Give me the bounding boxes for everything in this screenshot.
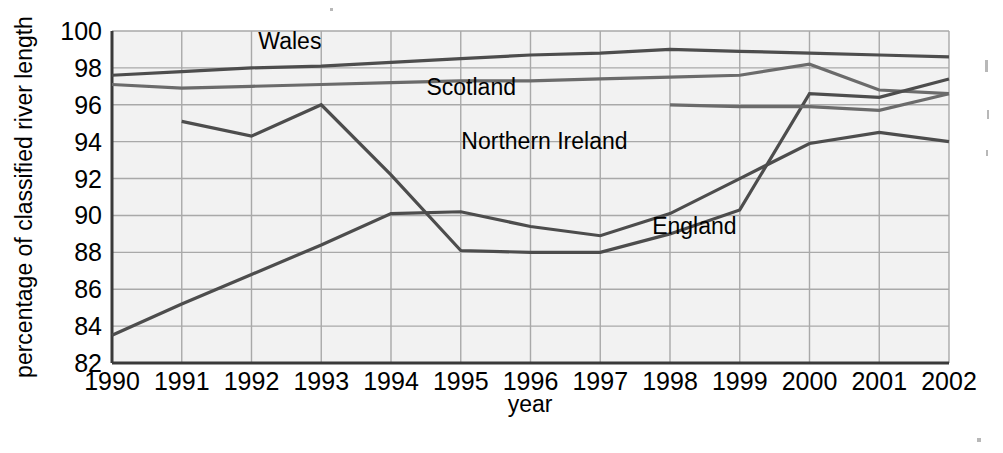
y-tick-label: 88 <box>74 238 102 266</box>
x-tick-label: 1995 <box>433 367 489 395</box>
x-tick-label: 2002 <box>921 367 977 395</box>
scan-speck <box>977 438 981 442</box>
scan-speck <box>985 60 988 72</box>
series-label-wales: Wales <box>258 28 321 54</box>
chart-figure: 828486889092949698100 199019911992199319… <box>0 0 1003 453</box>
x-tick-label: 1991 <box>154 367 210 395</box>
series-label-scotland: Scotland <box>426 74 516 100</box>
y-tick-label: 100 <box>60 17 102 45</box>
x-tick-label: 1994 <box>363 367 419 395</box>
y-tick-label: 92 <box>74 165 102 193</box>
y-tick-label: 94 <box>74 128 102 156</box>
x-tick-label: 2000 <box>782 367 838 395</box>
y-tick-label: 84 <box>74 312 102 340</box>
line-chart: 828486889092949698100 199019911992199319… <box>0 0 1003 453</box>
scan-speck <box>330 8 333 11</box>
x-tick-label: 1993 <box>293 367 349 395</box>
series-label-northern-ireland: Northern Ireland <box>461 128 627 154</box>
y-axis-title: percentage of classified river length <box>11 16 37 378</box>
y-tick-label: 86 <box>74 275 102 303</box>
x-tick-label: 1990 <box>84 367 140 395</box>
x-tick-label: 1998 <box>642 367 698 395</box>
x-axis-title: year <box>508 391 553 417</box>
x-tick-label: 1999 <box>712 367 768 395</box>
x-tick-label: 1992 <box>224 367 280 395</box>
series-label-england: England <box>652 213 736 239</box>
x-tick-label: 2001 <box>851 367 907 395</box>
y-tick-label: 96 <box>74 91 102 119</box>
x-tick-label: 1997 <box>572 367 628 395</box>
y-tick-label: 98 <box>74 54 102 82</box>
y-tick-label: 90 <box>74 201 102 229</box>
scan-speck <box>986 150 988 156</box>
scan-speck <box>987 110 989 119</box>
